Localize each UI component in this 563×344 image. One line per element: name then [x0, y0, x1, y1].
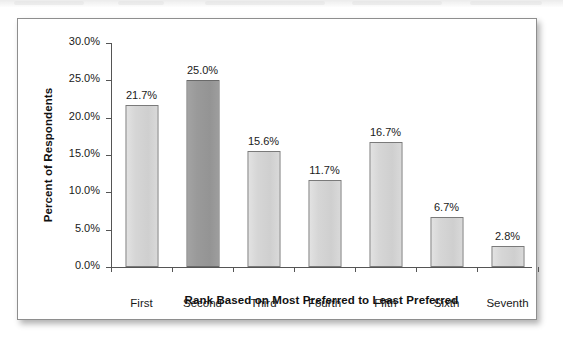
y-axis-tick-label: 5.0% — [75, 222, 100, 234]
bar-group: 25.0%Second — [172, 43, 233, 267]
scan-artifact — [0, 0, 563, 7]
x-axis-tick-mark — [172, 267, 173, 272]
bar-value-label: 21.7% — [126, 89, 157, 101]
x-axis-tick-mark — [233, 267, 234, 272]
bar[interactable] — [125, 105, 158, 267]
bar-group: 16.7%Fifth — [355, 43, 416, 267]
x-axis-tick-mark — [416, 267, 417, 272]
figure-card: Percent of Respondents 0.0%5.0%10.0%15.0… — [17, 18, 537, 320]
y-axis-title: Percent of Respondents — [42, 43, 56, 267]
bar-value-label: 25.0% — [187, 64, 218, 76]
x-axis-tick-mark — [111, 267, 112, 272]
bar-group: 2.8%Seventh — [477, 43, 538, 267]
bar[interactable] — [430, 217, 463, 267]
bar-value-label: 2.8% — [495, 230, 520, 242]
bar-chart: Percent of Respondents 0.0%5.0%10.0%15.0… — [18, 19, 536, 319]
bar-group: 6.7%Sixth — [416, 43, 477, 267]
bar-group: 15.6%Third — [233, 43, 294, 267]
x-axis-line — [111, 267, 532, 268]
bar-value-label: 11.7% — [309, 164, 339, 176]
bar[interactable] — [369, 142, 402, 267]
x-axis-tick-mark — [355, 267, 356, 272]
bar-group: 11.7%Fourth — [294, 43, 355, 267]
y-axis-tick-label: 25.0% — [69, 72, 100, 84]
x-axis-tick-mark — [538, 267, 539, 272]
bar-group: 21.7%First — [111, 43, 172, 267]
bar[interactable] — [186, 80, 219, 267]
y-axis-tick-label: 10.0% — [69, 184, 100, 196]
bar-value-label: 16.7% — [370, 126, 401, 138]
y-axis-tick-label: 30.0% — [69, 35, 100, 47]
y-axis-tick-label: 20.0% — [69, 110, 100, 122]
bar[interactable] — [247, 151, 280, 267]
x-axis-tick-mark — [294, 267, 295, 272]
x-axis-tick-mark — [477, 267, 478, 272]
bar[interactable] — [491, 246, 524, 267]
bar-value-label: 6.7% — [434, 201, 459, 213]
bar-value-label: 15.6% — [248, 135, 279, 147]
y-axis-tick-label: 15.0% — [69, 147, 100, 159]
y-axis-tick-label: 0.0% — [75, 259, 100, 271]
x-axis-title: Rank Based on Most Preferred to Least Pr… — [111, 294, 532, 306]
plot-area: 0.0%5.0%10.0%15.0%20.0%25.0%30.0% 21.7%F… — [111, 43, 538, 267]
bar[interactable] — [308, 180, 341, 267]
